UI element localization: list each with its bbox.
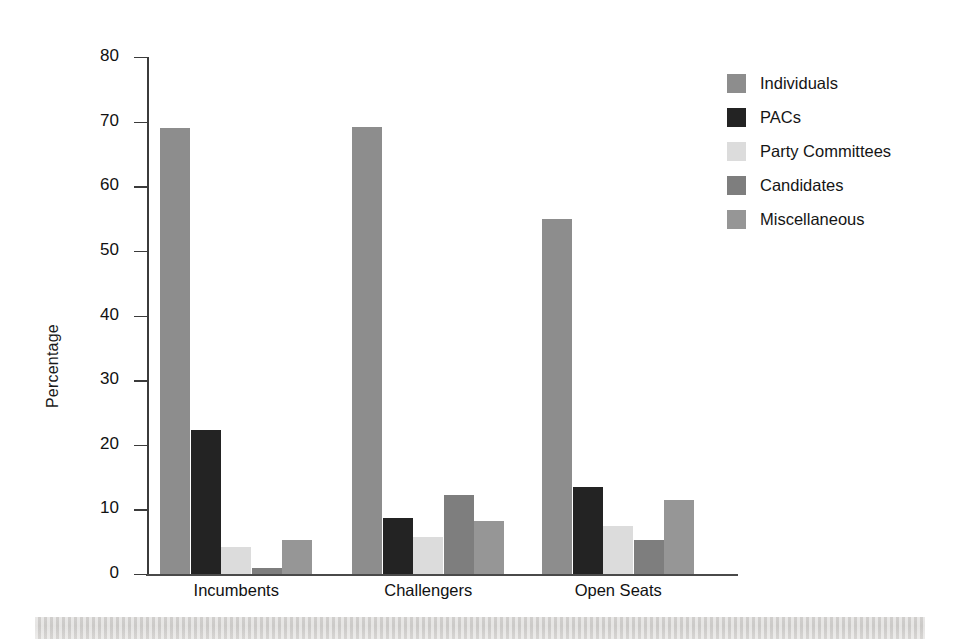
- bar: [444, 495, 474, 574]
- y-axis-tick-labels: 80706050403020100: [59, 57, 119, 574]
- y-axis-tick: [134, 445, 147, 446]
- legend-label: Individuals: [760, 74, 838, 93]
- legend-swatch: [727, 210, 746, 229]
- legend-item: Individuals: [727, 66, 942, 100]
- y-axis-tick-label: 70: [59, 111, 119, 131]
- y-axis-tick-label: 20: [59, 434, 119, 454]
- bar: [634, 540, 664, 574]
- legend-swatch: [727, 108, 746, 127]
- y-axis-tick-label: 10: [59, 498, 119, 518]
- bar: [352, 127, 382, 574]
- y-axis-tick-label: 50: [59, 240, 119, 260]
- legend-swatch: [727, 142, 746, 161]
- y-axis-tick-label: 80: [59, 46, 119, 66]
- legend-label: PACs: [760, 108, 801, 127]
- bar: [573, 487, 603, 574]
- bar: [413, 537, 443, 574]
- y-axis-tick-label: 30: [59, 369, 119, 389]
- bar-group: [160, 57, 313, 574]
- y-axis-tick-label: 60: [59, 175, 119, 195]
- bar: [474, 521, 504, 574]
- legend-label: Party Committees: [760, 142, 891, 161]
- bar: [603, 526, 633, 574]
- y-axis-tick-label: 40: [59, 305, 119, 325]
- bar: [252, 568, 282, 574]
- legend-label: Miscellaneous: [760, 210, 865, 229]
- legend-item: PACs: [727, 100, 942, 134]
- bar: [221, 547, 251, 574]
- plot-area: 80706050403020100 IncumbentsChallengersO…: [147, 57, 720, 574]
- bar: [282, 540, 312, 574]
- x-axis-category-label: Open Seats: [502, 581, 735, 600]
- legend-item: Party Committees: [727, 134, 942, 168]
- legend: IndividualsPACsParty CommitteesCandidate…: [727, 66, 942, 236]
- legend-swatch: [727, 74, 746, 93]
- y-axis-tick: [134, 380, 147, 381]
- bar: [383, 518, 413, 574]
- y-axis-tick: [134, 186, 147, 187]
- legend-item: Candidates: [727, 168, 942, 202]
- bar-group: [352, 57, 505, 574]
- bar-groups: IncumbentsChallengersOpen Seats: [147, 57, 720, 574]
- bar: [160, 128, 190, 574]
- y-axis-tick: [134, 251, 147, 252]
- bar: [542, 219, 572, 574]
- y-axis-tick: [134, 122, 147, 123]
- y-axis-tick: [134, 509, 147, 510]
- scan-edge-band: [35, 617, 925, 639]
- y-axis-tick: [134, 316, 147, 317]
- y-axis-tick: [134, 57, 147, 58]
- legend-label: Candidates: [760, 176, 843, 195]
- y-axis-tick: [134, 574, 147, 575]
- legend-swatch: [727, 176, 746, 195]
- legend-item: Miscellaneous: [727, 202, 942, 236]
- y-axis-tick-label: 0: [59, 563, 119, 583]
- bar: [191, 430, 221, 574]
- bar-group: [542, 57, 695, 574]
- bar-chart-figure: Percentage 80706050403020100 IncumbentsC…: [0, 0, 953, 641]
- bar: [664, 500, 694, 574]
- x-axis-baseline: [146, 574, 738, 576]
